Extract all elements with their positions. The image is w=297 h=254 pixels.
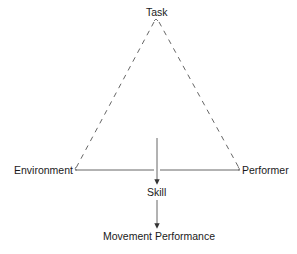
- apex-mark: [154, 19, 158, 21]
- diagram-canvas: Task Environment Performer Skill Movemen…: [0, 0, 297, 254]
- edge-task-performer: [159, 22, 239, 168]
- diagram-lines: [0, 0, 297, 254]
- edge-task-environment: [76, 22, 154, 168]
- node-movement-performance: Movement Performance: [103, 230, 215, 242]
- node-environment: Environment: [14, 164, 73, 176]
- node-task: Task: [146, 6, 168, 18]
- node-skill: Skill: [147, 186, 166, 198]
- node-performer: Performer: [242, 164, 289, 176]
